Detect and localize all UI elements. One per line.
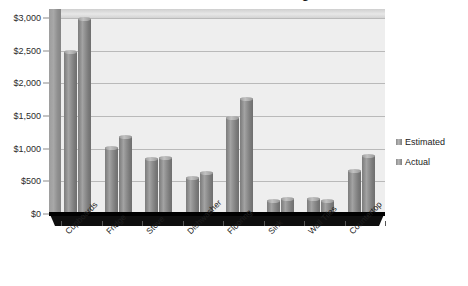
bar-estimated-countertop: [348, 170, 361, 214]
bar-series-group: [61, 18, 385, 214]
chart-title: Kitchen Renovation Budget: [0, 0, 468, 1]
bar-estimated-stove: [145, 158, 158, 214]
x-axis-label-sink: Sink: [266, 217, 285, 236]
x-axis-tick-mark: [304, 221, 305, 226]
legend-item-label: Estimated: [405, 137, 445, 147]
x-axis-tick-mark: [183, 221, 184, 226]
bar-actual-cupboards: [78, 18, 91, 214]
bar-actual-stove: [159, 157, 172, 214]
legend-swatch-icon: [396, 159, 402, 165]
x-axis-tick-mark: [223, 221, 224, 226]
y-axis-tick-label: $1,000: [13, 144, 41, 154]
chart-container: Kitchen Renovation Budget $0$500$1,000$1…: [0, 0, 468, 286]
bar-estimated-cupboards: [64, 51, 77, 214]
x-axis-tick-mark: [264, 221, 265, 226]
y-axis-tick-label: $1,500: [13, 111, 41, 121]
legend-item-label: Actual: [405, 157, 430, 167]
bar-estimated-fridge: [105, 147, 118, 214]
bar-actual-flooring: [240, 98, 253, 214]
y-axis-tick-label: $500: [21, 176, 41, 186]
x-axis-tick-mark: [142, 221, 143, 226]
plot-area-3d: [49, 9, 385, 221]
chart-left-wall: [49, 9, 61, 214]
x-axis-tick-mark: [345, 221, 346, 226]
bar-estimated-dishwasher: [186, 177, 199, 214]
x-axis-tick-mark: [61, 221, 62, 226]
chart-back-wall-top: [49, 9, 385, 18]
y-axis-tick-label: $3,000: [13, 13, 41, 23]
x-axis: CupboardsFridgeStoveDishwasherFlooringSi…: [49, 221, 385, 286]
x-axis-tick-mark: [385, 221, 386, 226]
x-axis-tick-mark: [102, 221, 103, 226]
y-axis-tick-label: $2,500: [13, 46, 41, 56]
chart-legend: EstimatedActual: [396, 136, 468, 176]
legend-swatch-icon: [396, 139, 402, 145]
y-axis-tick-label: $2,000: [13, 78, 41, 88]
bar-estimated-flooring: [226, 117, 239, 214]
y-axis-tick-label: $0: [31, 209, 41, 219]
legend-item-actual[interactable]: Actual: [396, 156, 468, 167]
y-axis: $0$500$1,000$1,500$2,000$2,500$3,000: [0, 0, 49, 286]
bar-actual-fridge: [119, 136, 132, 214]
legend-item-estimated[interactable]: Estimated: [396, 136, 468, 147]
